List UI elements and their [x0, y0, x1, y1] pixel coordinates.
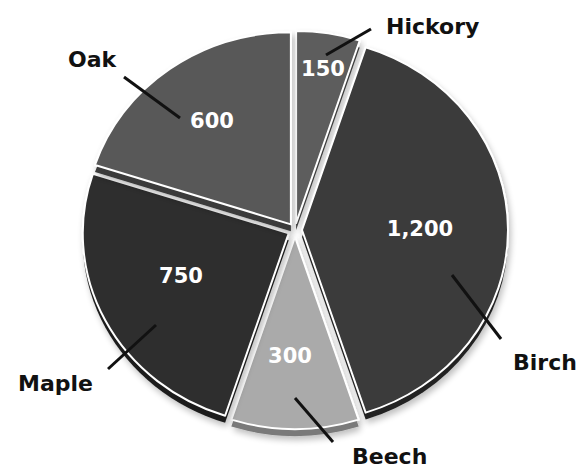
category-label-oak: Oak: [68, 47, 118, 72]
pie-chart: 150Hickory1,200Birch300Beech750Maple600O…: [0, 0, 586, 473]
category-label-beech: Beech: [352, 444, 427, 469]
value-label-birch: 1,200: [387, 217, 453, 241]
category-label-birch: Birch: [513, 350, 577, 375]
category-label-maple: Maple: [18, 371, 93, 396]
pie-chart-svg: 150Hickory1,200Birch300Beech750Maple600O…: [0, 0, 586, 473]
value-label-beech: 300: [268, 344, 312, 368]
value-label-oak: 600: [190, 109, 234, 133]
value-label-hickory: 150: [301, 57, 345, 81]
value-label-maple: 750: [159, 264, 203, 288]
category-label-hickory: Hickory: [386, 14, 479, 39]
